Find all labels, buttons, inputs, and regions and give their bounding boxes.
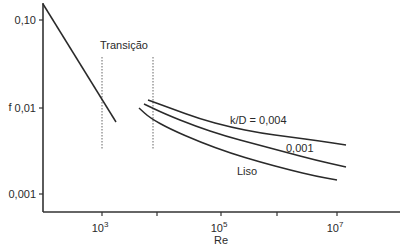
annotation-label: k/D = 0,004 [230, 114, 287, 126]
y-axis-label: f [8, 101, 12, 113]
curve-laminar [43, 4, 116, 122]
x-tick-label: 105 [211, 220, 228, 234]
annotations: Transiçãok/D = 0,0040,001Liso [100, 39, 314, 177]
y-tick-label: 0,10 [15, 14, 36, 26]
annotation-label: Liso [237, 165, 257, 177]
x-tick-label: 103 [92, 220, 109, 234]
y-tick-label: 0,001 [8, 188, 36, 200]
transition-guides [102, 57, 153, 150]
y-tick-label: 0,01 [15, 102, 36, 114]
annotation-label: Transição [100, 39, 148, 51]
annotation-label: 0,001 [286, 142, 314, 154]
axes: 0,100,010,001103105107 [8, 3, 400, 234]
x-tick-label: 107 [327, 220, 344, 234]
friction-factor-chart: 0,100,010,001103105107 Transiçãok/D = 0,… [0, 0, 403, 248]
x-axis-label: Re [214, 234, 228, 246]
